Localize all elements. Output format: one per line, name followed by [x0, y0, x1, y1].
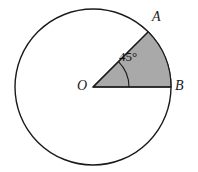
label-angle-measure: 45°	[119, 50, 137, 63]
label-point-b: B	[175, 79, 184, 93]
label-center-o: O	[77, 79, 87, 93]
geometry-figure: O A B 45°	[0, 0, 198, 172]
label-point-a: A	[152, 10, 161, 24]
circle-sector-diagram	[0, 0, 198, 172]
